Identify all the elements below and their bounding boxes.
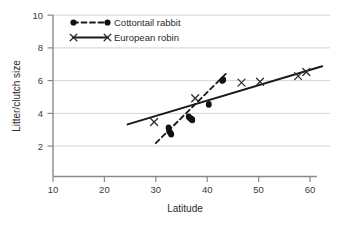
rabbit-point-marker [168,131,174,138]
scatter-plot: 10 8 6 4 2 10 20 30 40 50 60 Latitude Li… [0,0,337,227]
legend-marker-dot-left [70,19,76,25]
y-tick-label-6: 6 [38,75,43,86]
x-tick-label-20: 20 [99,184,110,195]
x-tick-label-10: 10 [48,184,59,195]
y-tick-label-4: 4 [38,108,43,119]
y-tick-label-8: 8 [38,42,43,53]
legend-marker-dot-right [104,19,110,25]
legend-label-european-robin: European robin [114,32,179,43]
x-tick-label-50: 50 [253,184,264,195]
chart-figure: 10 8 6 4 2 10 20 30 40 50 60 Latitude Li… [0,0,337,227]
x-axis-title: Latitude [167,203,203,214]
y-axis-title: Litter/clutch size [11,60,22,132]
y-tick-label-2: 2 [38,141,43,152]
x-tick-label-40: 40 [202,184,213,195]
rabbit-point-marker [189,117,195,124]
rabbit-point-marker [220,77,226,84]
x-tick-label-30: 30 [151,184,162,195]
x-tick-label-60: 60 [305,184,316,195]
legend-label-cottontail-rabbit: Cottontail rabbit [114,17,181,28]
rabbit-point-marker [206,101,212,108]
y-tick-label-10: 10 [32,10,43,21]
